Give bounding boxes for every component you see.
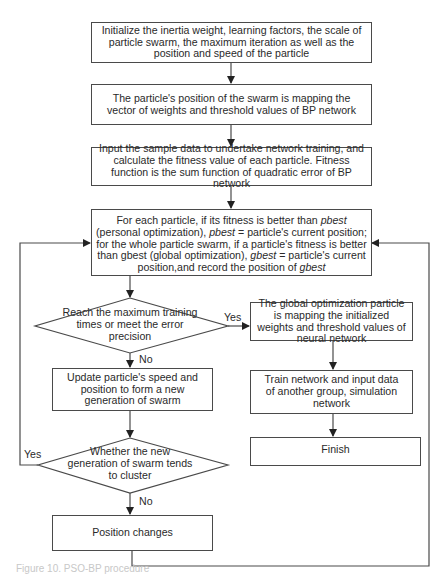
term-pbest: pbest [209, 226, 235, 238]
node-train: Train network and input data of another … [250, 370, 413, 414]
label-yes-cluster: Yes [24, 448, 41, 460]
term-gbest: gbest [300, 261, 326, 273]
node-global-map: The global optimization particle is mapp… [250, 302, 413, 341]
text-part2: (personal optimization), [96, 226, 209, 238]
label-yes-max: Yes [224, 311, 241, 323]
figure-caption: Figure 10. PSO-BP procedure [16, 563, 149, 574]
decision-cluster-text: Whether the new generation of swarm tend… [66, 446, 194, 481]
loop-yes-to-best [20, 243, 90, 465]
node-finish: Finish [250, 437, 421, 466]
text-part1: For each particle, if its fitness is bet… [116, 214, 320, 226]
node-update-speed: Update particle's speed and position to … [52, 368, 213, 411]
node-mapping: The particle's position of the swarm is … [91, 84, 372, 125]
label-no-cluster: No [139, 495, 153, 507]
flowchart: Initialize the inertia weight, learning … [0, 0, 446, 575]
node-position-changes: Position changes [52, 515, 213, 551]
term-gbest: gbest [250, 249, 276, 261]
decision-max-text: Reach the maximum training times or meet… [62, 307, 198, 342]
node-init: Initialize the inertia weight, learning … [91, 22, 372, 63]
label-no-max: No [139, 353, 153, 365]
term-pbest: pbest [321, 214, 347, 226]
node-update-best: For each particle, if its fitness is bet… [91, 209, 372, 276]
node-fitness: Input the sample data to undertake netwo… [91, 147, 372, 186]
